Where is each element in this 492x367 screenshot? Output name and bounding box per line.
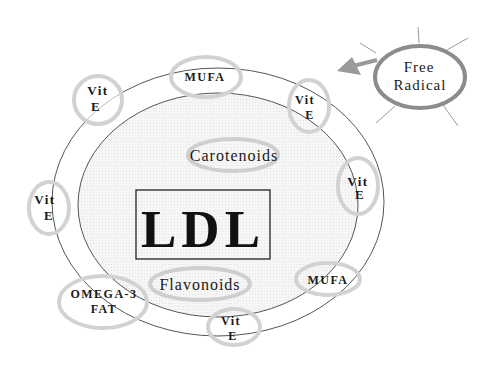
vite-top-left-badge: Vit E [74, 76, 122, 124]
omega3-line1: OMEGA-3 [70, 287, 137, 301]
vite-top-left-line1: Vit [87, 83, 108, 98]
vite-left-line1: Vit [34, 192, 55, 207]
vite-bottom-line1: Vit [221, 314, 241, 328]
vite-right-line2: E [355, 187, 365, 202]
arrow-icon [337, 57, 377, 75]
vite-left-line2: E [44, 208, 54, 223]
omega3-line2: FAT [91, 302, 118, 316]
carotenoids-label: Carotenoids [190, 147, 278, 164]
vite-top-right-line2: E [305, 108, 315, 122]
vite-top-right-line1: Vit [295, 93, 315, 107]
ldl-title: LDL [141, 200, 265, 258]
mufa-bottom-right-label: MUFA [307, 273, 348, 287]
free-radical-line2: Radical [394, 77, 447, 93]
free-radical: Free Radical [337, 27, 468, 126]
ldl-label-box: LDL [136, 190, 270, 259]
vite-bottom-line2: E [228, 329, 238, 343]
vite-top-left-line2: E [91, 99, 101, 114]
free-radical-line1: Free [404, 59, 435, 75]
ldl-diagram: LDL Carotenoids Flavonoids Vit E MUFA Vi… [0, 0, 492, 367]
mufa-top-label: MUFA [184, 70, 225, 84]
flavonoids-label: Flavonoids [159, 276, 240, 293]
